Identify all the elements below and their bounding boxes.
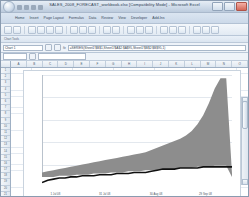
maximize-button[interactable] (224, 2, 235, 11)
save-icon[interactable] (17, 5, 22, 10)
row-header[interactable]: 21 (1, 192, 10, 197)
tab-page-layout[interactable]: Page Layout (44, 16, 64, 20)
column-header-h[interactable]: H (122, 61, 138, 67)
ribbon-group-styles[interactable] (127, 26, 153, 34)
column-header-f[interactable]: F (90, 61, 106, 67)
column-header-l[interactable]: L (185, 61, 201, 67)
align-right-icon[interactable] (88, 26, 96, 34)
insert-cell-icon[interactable] (160, 26, 168, 34)
ribbon-group-font[interactable] (28, 26, 63, 34)
ribbon-body[interactable] (1, 24, 248, 36)
align-left-icon[interactable] (70, 26, 78, 34)
currency-icon[interactable] (103, 26, 111, 34)
accept-formula-button[interactable] (54, 44, 61, 51)
sort-filter-icon[interactable] (202, 26, 210, 34)
tab-view[interactable]: View (118, 16, 126, 20)
column-header-i[interactable]: I (137, 61, 153, 67)
table-style-icon[interactable] (136, 26, 144, 34)
tab-home[interactable]: Home (15, 16, 25, 20)
formula-input[interactable]: =SERIES(Sheet1!$B$1,Sheet1!$A$2:$A$95,Sh… (68, 45, 246, 51)
window-controls[interactable] (212, 2, 247, 11)
contextual-title: Chart Tools (4, 37, 19, 41)
column-header-b[interactable]: B (27, 61, 43, 67)
column-header-c[interactable]: C (43, 61, 59, 67)
vertical-scrollbar[interactable] (241, 97, 248, 185)
row-headers[interactable]: 1234567891011121314151617181920212223242… (1, 68, 11, 197)
pivot-value-box[interactable] (38, 53, 86, 60)
scroll-down-arrow[interactable] (242, 179, 248, 185)
chart-object[interactable]: 1 Jul 0831 Jul 0830 Aug 0829 Sep 08 (23, 70, 241, 197)
bold-icon[interactable] (28, 26, 36, 34)
customize-qat-icon[interactable] (38, 5, 43, 10)
ribbon-group-alignment[interactable] (70, 26, 96, 34)
column-header-k[interactable]: K (169, 61, 185, 67)
format-cell-icon[interactable] (178, 26, 186, 34)
pivot-dropdown-icon[interactable] (29, 53, 36, 60)
ribbon-separator (156, 26, 157, 34)
insert-function-icon[interactable]: fx (63, 46, 66, 50)
ribbon-separator (99, 26, 100, 34)
tab-review[interactable]: Review (101, 16, 113, 20)
column-header-e[interactable]: E (74, 61, 90, 67)
minimize-button[interactable] (212, 2, 223, 11)
column-header-a[interactable]: A (11, 61, 27, 67)
worksheet[interactable]: A B C D E F G H I J K L M N O 1234567891… (1, 61, 248, 197)
paste-icon[interactable] (4, 26, 12, 34)
column-header-g[interactable]: G (106, 61, 122, 67)
column-header-o[interactable]: O (232, 61, 248, 67)
window-title: SALES_2008_FORECAST_workbook.xlsx [Compa… (49, 2, 200, 7)
vertical-scroll-thumb[interactable] (242, 101, 248, 129)
redo-icon[interactable] (31, 5, 36, 10)
ribbon-group-number[interactable] (103, 26, 120, 34)
percent-icon[interactable] (112, 26, 120, 34)
align-center-icon[interactable] (79, 26, 87, 34)
column-headers[interactable]: A B C D E F G H I J K L M N O (1, 61, 248, 68)
ribbon-group-cells[interactable] (160, 26, 186, 34)
tab-formulas[interactable]: Formulas (69, 16, 84, 20)
office-button-icon[interactable] (3, 1, 15, 13)
x-tick-label: 31 Jul 08 (99, 192, 110, 196)
find-select-icon[interactable] (211, 26, 219, 34)
ribbon-separator (66, 26, 67, 34)
contextual-ribbon-strip: Chart Tools (1, 36, 248, 43)
ribbon-separator (24, 26, 25, 34)
quick-access-toolbar[interactable] (3, 1, 43, 13)
tab-insert[interactable]: Insert (30, 16, 39, 20)
chart-series-svg (42, 75, 232, 187)
chart-plot-area: 1 Jul 0831 Jul 0830 Aug 0829 Sep 08 (42, 75, 232, 187)
cut-icon[interactable] (13, 26, 21, 34)
close-button[interactable] (236, 2, 247, 11)
name-box[interactable]: Chart 1 (3, 45, 43, 51)
tab-developer[interactable]: Developer (131, 16, 147, 20)
ribbon-group-editing[interactable] (193, 26, 219, 34)
cancel-formula-button[interactable] (45, 44, 52, 51)
column-header-m[interactable]: M (201, 61, 217, 67)
x-tick-label: 1 Jul 08 (50, 192, 60, 196)
x-tick-label: 29 Sep 08 (199, 192, 212, 196)
tab-add-ins[interactable]: Add-Ins (152, 16, 164, 20)
cell-area[interactable]: 1 Jul 0831 Jul 0830 Aug 0829 Sep 08 sum … (11, 68, 248, 197)
conditional-format-icon[interactable] (127, 26, 135, 34)
column-header-n[interactable]: N (216, 61, 232, 67)
ribbon-separator (123, 26, 124, 34)
pivot-field-strip[interactable] (1, 53, 248, 61)
column-header-j[interactable]: J (153, 61, 169, 67)
title-bar: SALES_2008_FORECAST_workbook.xlsx [Compa… (1, 1, 248, 13)
column-header-d[interactable]: D (58, 61, 74, 67)
ribbon-tabs[interactable]: Home Insert Page Layout Formulas Data Re… (1, 13, 248, 24)
italic-icon[interactable] (37, 26, 45, 34)
grid-body[interactable]: 1234567891011121314151617181920212223242… (1, 68, 248, 197)
border-icon[interactable] (55, 26, 63, 34)
delete-cell-icon[interactable] (169, 26, 177, 34)
x-tick-label: 30 Aug 08 (150, 192, 163, 196)
formula-bar[interactable]: Chart 1 fx =SERIES(Sheet1!$B$1,Sheet1!$A… (1, 43, 248, 53)
autosum-icon[interactable] (193, 26, 201, 34)
ribbon-group-clipboard[interactable] (4, 26, 21, 34)
select-all-corner[interactable] (1, 61, 11, 67)
cell-style-icon[interactable] (145, 26, 153, 34)
undo-icon[interactable] (24, 5, 29, 10)
tab-data[interactable]: Data (89, 16, 97, 20)
ribbon-separator (189, 26, 190, 34)
pivot-field-box[interactable] (3, 53, 27, 60)
underline-icon[interactable] (46, 26, 54, 34)
